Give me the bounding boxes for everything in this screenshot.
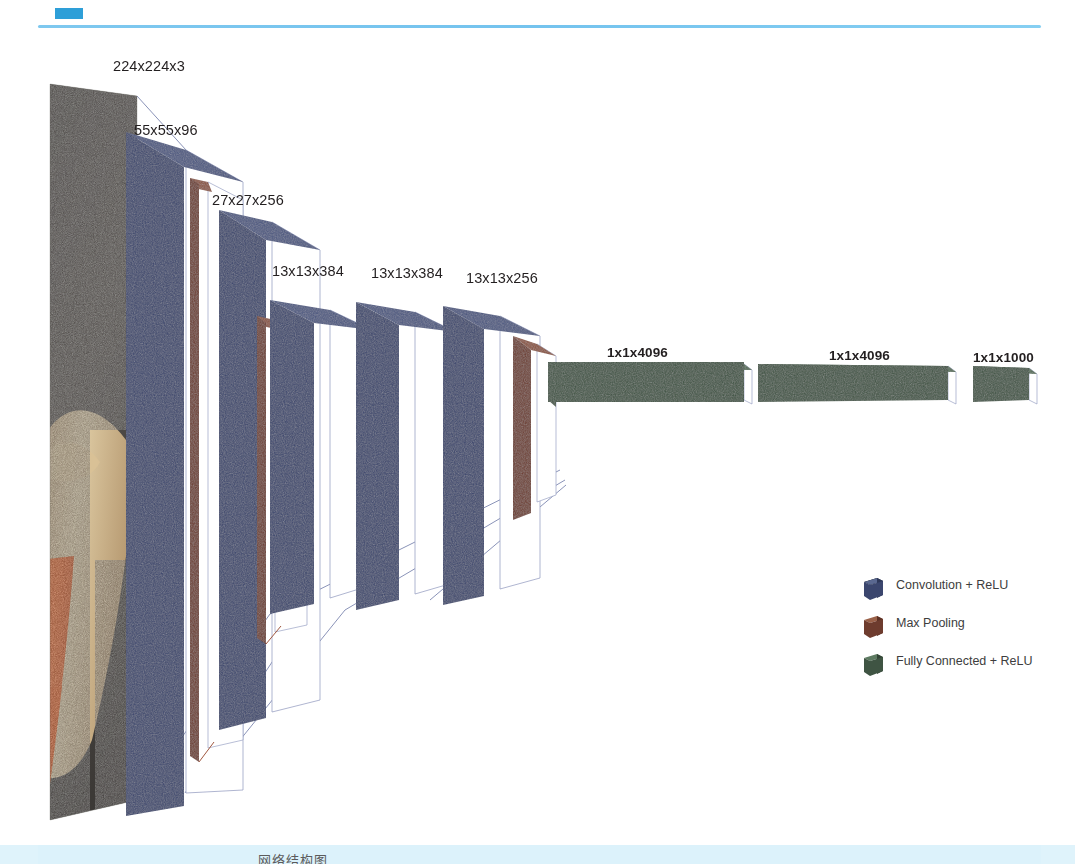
bottom-strip (0, 845, 1075, 864)
cube-icon (862, 652, 884, 676)
bottom-strip-inner (38, 845, 1041, 864)
legend-item-max-pooling: Max Pooling (862, 610, 1062, 648)
legend-item-fully-connected: Fully Connected + ReLU (862, 648, 1062, 686)
legend-label-fully-connected: Fully Connected + ReLU (896, 654, 1033, 668)
page-root: 224x224x3 55x55x96 27x27x256 13x13x384 1… (0, 0, 1075, 864)
label-input-dimensions: 224x224x3 (113, 58, 185, 74)
label-fc7-dimensions: 1x1x4096 (829, 348, 890, 363)
diagram-stage: 224x224x3 55x55x96 27x27x256 13x13x384 1… (0, 0, 1075, 845)
cube-icon (862, 576, 884, 600)
layer-block-fc6 (548, 362, 752, 407)
label-fc8-dimensions: 1x1x1000 (973, 350, 1034, 365)
label-conv2-dimensions: 27x27x256 (212, 192, 284, 208)
layer-block-fc7 (758, 364, 956, 404)
label-conv5-dimensions: 13x13x256 (466, 270, 538, 286)
layer-block-conv4 (356, 302, 456, 610)
legend-item-convolution: Convolution + ReLU (862, 572, 1062, 610)
legend-label-convolution: Convolution + ReLU (896, 578, 1008, 592)
label-fc6-dimensions: 1x1x4096 (607, 345, 668, 360)
label-conv4-dimensions: 13x13x384 (371, 265, 443, 281)
label-conv3-dimensions: 13x13x384 (272, 263, 344, 279)
label-conv1-dimensions: 55x55x96 (134, 122, 198, 138)
bottom-color-swatch (55, 8, 83, 19)
layer-block-fc8 (973, 366, 1037, 404)
legend-label-max-pooling: Max Pooling (896, 616, 965, 630)
cube-icon (862, 614, 884, 638)
legend: Convolution + ReLU Max Pooling Fully Con… (862, 572, 1062, 686)
bottom-caption-text: 网络结构图 (258, 852, 328, 864)
